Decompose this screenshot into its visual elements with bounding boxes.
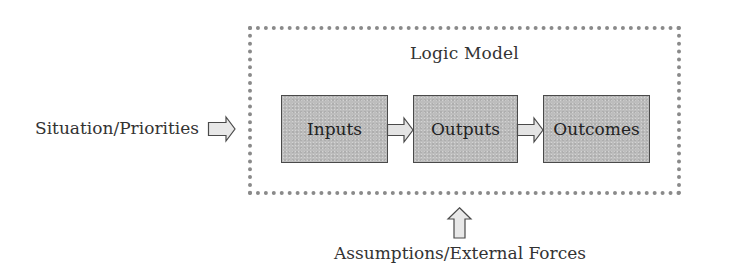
inputs-box: Inputs — [281, 95, 388, 163]
right-block-arrow-icon — [208, 116, 236, 142]
right-block-arrow-icon — [517, 117, 544, 143]
assumptions-external-forces-label: Assumptions/External Forces — [300, 243, 620, 263]
outputs-box: Outputs — [413, 95, 518, 163]
logic-model-title: Logic Model — [248, 43, 681, 63]
situation-priorities-label: Situation/Priorities — [35, 118, 199, 138]
outcomes-box: Outcomes — [543, 95, 650, 163]
inputs-label: Inputs — [307, 119, 362, 139]
outcomes-label: Outcomes — [553, 119, 639, 139]
right-block-arrow-icon — [387, 117, 414, 143]
outputs-label: Outputs — [431, 119, 500, 139]
up-block-arrow-icon — [447, 207, 472, 239]
